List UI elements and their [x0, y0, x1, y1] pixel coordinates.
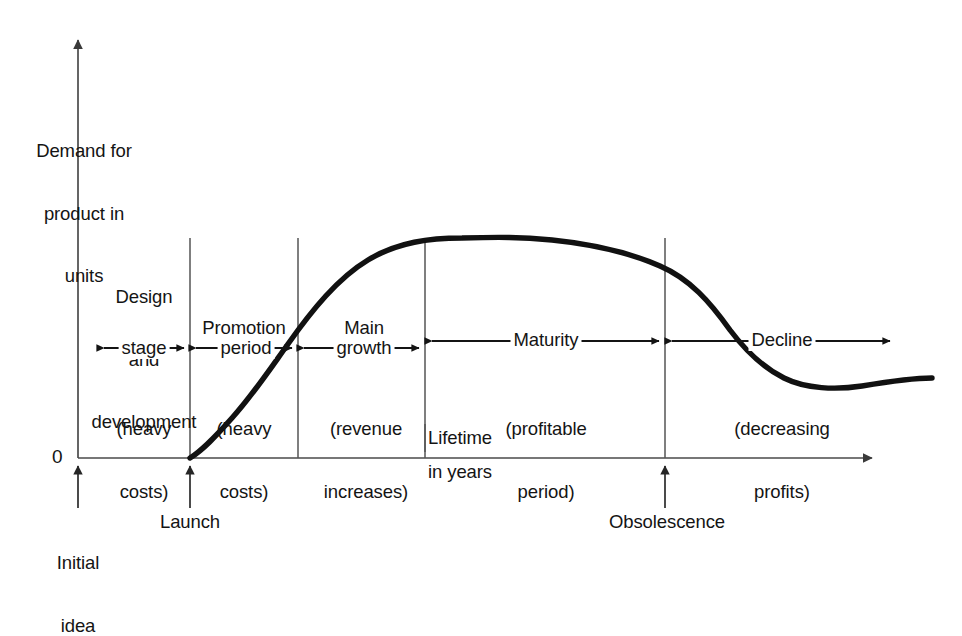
- marker-launch: Launch: [160, 512, 220, 533]
- phase-decline-note: (decreasing profits): [734, 378, 830, 544]
- marker-initial-idea-line-2: idea: [57, 616, 100, 636]
- marker-initial-idea: Initial idea: [57, 512, 100, 636]
- phase-promotion-note: (heavy costs): [217, 378, 272, 544]
- x-axis-title-upper: Lifetime: [426, 428, 494, 449]
- x-axis-title-lower: in years: [426, 462, 494, 483]
- phase-decline-label: Decline: [749, 330, 816, 351]
- phase-design-note-line-1: (heavy: [117, 419, 172, 440]
- y-axis-title-line-1: Demand for: [36, 141, 132, 162]
- phase-decline-note-line-2: profits): [734, 482, 830, 503]
- y-axis-title-line-2: product in: [36, 204, 132, 225]
- phase-growth-upper: Main: [344, 318, 384, 339]
- phase-growth-lower: growth: [334, 338, 395, 359]
- phase-design-line-4: stage: [119, 338, 170, 359]
- marker-obsolescence: Obsolescence: [609, 512, 725, 533]
- phase-maturity-note: (profitable period): [505, 378, 586, 544]
- phase-growth-note-line-2: increases): [324, 482, 408, 503]
- phase-maturity-note-line-1: (profitable: [505, 419, 586, 440]
- phase-promotion-note-line-1: (heavy: [217, 419, 272, 440]
- phase-growth-note: (revenue increases): [324, 378, 408, 544]
- phase-promotion-upper: Promotion: [202, 318, 285, 339]
- phase-maturity-label: Maturity: [511, 330, 582, 351]
- phase-maturity-note-line-2: period): [505, 482, 586, 503]
- phase-design-note-line-2: costs): [117, 482, 172, 503]
- phase-design-line-1: Design: [92, 287, 197, 308]
- phase-decline-note-line-1: (decreasing: [734, 419, 830, 440]
- phase-growth-note-line-1: (revenue: [324, 419, 408, 440]
- origin-zero-label: 0: [52, 446, 62, 467]
- marker-initial-idea-line-1: Initial: [57, 553, 100, 574]
- phase-promotion-lower: period: [218, 338, 275, 359]
- phase-promotion-note-line-2: costs): [217, 482, 272, 503]
